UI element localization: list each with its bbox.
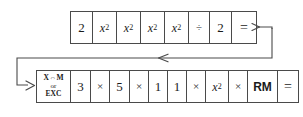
key-1-b[interactable]: 1 <box>168 71 187 102</box>
key-x-squared-5[interactable]: x2 <box>206 71 229 102</box>
key-2-b[interactable]: 2 <box>210 12 232 43</box>
key-3[interactable]: 3 <box>71 71 91 102</box>
key-x-squared-1[interactable]: x2 <box>93 12 117 43</box>
key-x-squared-3[interactable]: x2 <box>141 12 165 43</box>
key-equals-top[interactable]: = <box>232 12 256 43</box>
key-x-squared-4[interactable]: x2 <box>165 12 189 43</box>
key-memory-exchange[interactable]: X⇔M or EXC <box>37 71 71 102</box>
key-multiply-3[interactable]: × <box>187 71 206 102</box>
key-multiply-2[interactable]: × <box>130 71 149 102</box>
key-divide[interactable]: ÷ <box>189 12 210 43</box>
bottom-sequence-row: X⇔M or EXC 3 × 5 × 1 1 × x2 × RM = <box>36 70 299 103</box>
key-x-squared-2[interactable]: x2 <box>117 12 141 43</box>
connector-segment-exit <box>257 27 272 29</box>
key-1-a[interactable]: 1 <box>149 71 168 102</box>
arrowhead-right-into-bottom-row <box>26 81 35 90</box>
key-recall-memory[interactable]: RM <box>248 71 278 102</box>
key-equals-bottom[interactable]: = <box>278 71 298 102</box>
key-2-a[interactable]: 2 <box>71 12 93 43</box>
key-multiply-4[interactable]: × <box>229 71 248 102</box>
key-multiply-1[interactable]: × <box>91 71 110 102</box>
arrowhead-left-midline <box>159 54 169 62</box>
top-sequence-row: 2 x2 x2 x2 x2 ÷ 2 = <box>70 11 257 44</box>
key-5[interactable]: 5 <box>110 71 130 102</box>
key-base: x <box>212 81 217 93</box>
keystroke-diagram: 2 x2 x2 x2 x2 ÷ 2 = X⇔M or EXC 3 × 5 × 1… <box>0 0 303 117</box>
key-line-3: EXC <box>46 90 62 98</box>
